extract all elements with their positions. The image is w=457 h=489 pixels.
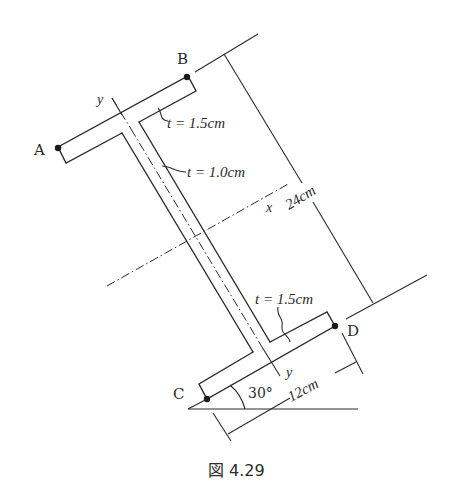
extension-line-c: [213, 413, 231, 441]
figure-caption: 図 4.29: [208, 461, 265, 480]
point-b-label: B: [177, 50, 188, 68]
extension-line-bottom: [346, 275, 427, 319]
y-axis-line-bottom: [262, 347, 280, 376]
x-axis-line: [107, 183, 290, 286]
inclined-reference-line: [188, 399, 207, 409]
thickness-label-top-flange: t = 1.5cm: [167, 115, 225, 131]
point-b-dot: [184, 74, 190, 80]
thickness-label-web: t = 1.0cm: [187, 164, 245, 180]
dimension-line-12cm-right: [335, 362, 356, 373]
thickness-label-bottom-flange: t = 1.5cm: [255, 291, 313, 307]
dimension-line-12cm-left: [228, 398, 290, 434]
point-d-dot: [332, 323, 338, 329]
y-axis-label-bottom: y: [284, 365, 293, 380]
leader-web: [162, 166, 186, 172]
web-right-edge: [139, 122, 270, 342]
i-beam-diagram: A B C D y y x 24cm t = 1.5cm t = 1.0cm t…: [0, 0, 457, 489]
x-axis-label: x: [265, 200, 273, 215]
point-c-label: C: [173, 385, 184, 403]
dimension-line-24cm-lower: [313, 202, 373, 303]
y-axis-line-top: [112, 98, 122, 115]
angle-label: 30°: [248, 385, 273, 401]
dimension-label-24cm: 24cm: [282, 182, 318, 213]
point-d-label: D: [347, 322, 359, 340]
point-a-label: A: [33, 141, 45, 159]
angle-arc: [230, 385, 245, 409]
extension-line-top: [195, 34, 258, 72]
y-axis-line-web: [131, 129, 262, 347]
point-a-dot: [55, 145, 61, 151]
y-axis-label-top: y: [95, 92, 104, 107]
